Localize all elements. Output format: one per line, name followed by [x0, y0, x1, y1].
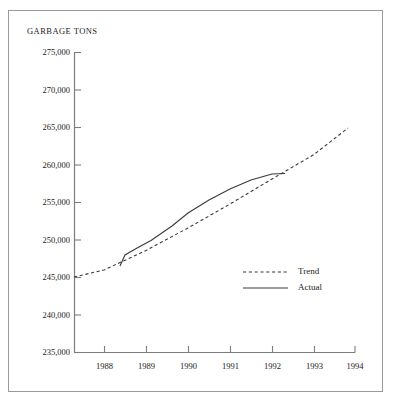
series-line-trend [74, 128, 348, 277]
x-axis-ticks [105, 346, 356, 353]
x-tick-label: 1993 [295, 361, 335, 371]
y-tick-label: 240,000 [14, 310, 70, 320]
y-axis-ticks [75, 53, 82, 353]
y-tick-label: 245,000 [14, 272, 70, 282]
legend-label-actual: Actual [298, 282, 322, 292]
y-tick-label: 270,000 [14, 85, 70, 95]
x-tick-label: 1991 [211, 361, 251, 371]
y-tick-label: 235,000 [14, 347, 70, 357]
chart-figure: GARBAGE TONS [0, 0, 394, 409]
legend-label-trend: Trend [298, 266, 319, 276]
x-tick-label: 1990 [169, 361, 209, 371]
axis-lines [74, 52, 355, 353]
x-tick-label: 1992 [253, 361, 293, 371]
y-tick-label: 275,000 [14, 47, 70, 57]
x-tick-label: 1994 [335, 361, 375, 371]
x-tick-label: 1989 [127, 361, 167, 371]
y-tick-label: 265,000 [14, 122, 70, 132]
legend [243, 272, 288, 288]
x-tick-label: 1988 [85, 361, 125, 371]
y-tick-label: 250,000 [14, 235, 70, 245]
y-tick-label: 255,000 [14, 197, 70, 207]
y-tick-label: 260,000 [14, 160, 70, 170]
